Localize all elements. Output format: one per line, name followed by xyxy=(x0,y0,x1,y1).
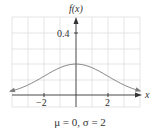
y-axis-arrow-icon xyxy=(74,17,79,24)
x-tick-label-2: 2 xyxy=(105,97,110,108)
axes xyxy=(12,17,142,107)
x-tick-label-neg2: −2 xyxy=(36,97,47,108)
density-curve xyxy=(9,64,141,92)
x-axis-label: x xyxy=(144,89,150,100)
distribution-parameters-caption: μ = 0, σ = 2 xyxy=(0,116,160,128)
curve-right-arrow-icon xyxy=(135,87,141,92)
x-axis-arrow-icon xyxy=(135,93,142,98)
y-tick-label-0.4: 0.4 xyxy=(57,28,70,39)
y-axis-label: f(x) xyxy=(69,3,84,15)
